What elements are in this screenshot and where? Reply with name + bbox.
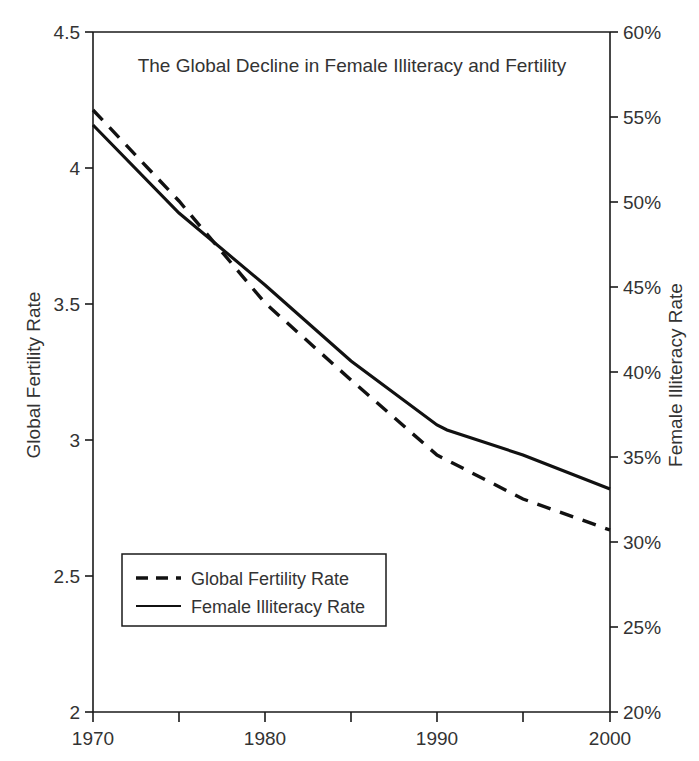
right-axis-title: Female Illiteracy Rate <box>665 283 686 467</box>
left-tick-label-4-5: 4.5 <box>54 22 80 43</box>
chart-title: The Global Decline in Female Illiteracy … <box>138 55 567 76</box>
series-line-female-illiteracy-rate <box>93 125 610 489</box>
legend-label-female-illiteracy-rate: Female Illiteracy Rate <box>191 597 365 617</box>
left-tick-label-2: 2 <box>69 702 80 723</box>
right-tick-label-50: 50% <box>623 192 661 213</box>
x-tick-label-2000: 2000 <box>589 728 631 749</box>
x-tick-label-1990: 1990 <box>416 728 458 749</box>
chart-legend: Global Fertility Rate Female Illiteracy … <box>122 554 386 626</box>
legend-label-global-fertility-rate: Global Fertility Rate <box>191 569 349 589</box>
chart-figure: 4.5 4 3.5 3 2.5 2 60% 55% 50% 45% 40% 3 <box>0 0 699 761</box>
right-axis-tick-labels: 60% 55% 50% 45% 40% 35% 30% 25% 20% <box>623 22 661 723</box>
left-tick-label-3: 3 <box>69 430 80 451</box>
x-axis-tick-labels: 1970 1980 1990 2000 <box>72 728 631 749</box>
right-tick-label-25: 25% <box>623 617 661 638</box>
left-axis-ticks <box>85 32 93 712</box>
left-tick-label-4: 4 <box>69 158 80 179</box>
x-tick-label-1970: 1970 <box>72 728 114 749</box>
left-axis-title: Global Fertility Rate <box>23 292 44 459</box>
right-tick-label-30: 30% <box>623 532 661 553</box>
right-tick-label-35: 35% <box>623 447 661 468</box>
series-line-global-fertility-rate <box>93 110 610 530</box>
right-tick-label-55: 55% <box>623 107 661 128</box>
right-axis-ticks <box>610 32 618 712</box>
right-tick-label-45: 45% <box>623 277 661 298</box>
right-tick-label-20: 20% <box>623 702 661 723</box>
right-tick-label-40: 40% <box>623 362 661 383</box>
left-axis-tick-labels: 4.5 4 3.5 3 2.5 2 <box>54 22 81 723</box>
left-tick-label-2-5: 2.5 <box>54 566 80 587</box>
right-tick-label-60: 60% <box>623 22 661 43</box>
line-chart: 4.5 4 3.5 3 2.5 2 60% 55% 50% 45% 40% 3 <box>0 0 699 761</box>
x-axis-ticks <box>93 712 610 722</box>
left-tick-label-3-5: 3.5 <box>54 294 80 315</box>
x-tick-label-1980: 1980 <box>244 728 286 749</box>
